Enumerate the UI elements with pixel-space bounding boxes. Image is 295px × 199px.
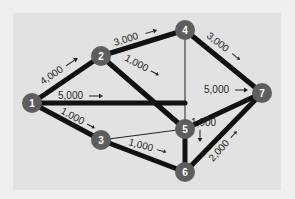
node-7: 7 xyxy=(252,83,272,103)
node-5: 5 xyxy=(175,119,195,139)
arrow-right-icon xyxy=(229,130,238,139)
arrow-right-icon xyxy=(231,52,241,61)
node-4: 4 xyxy=(175,20,195,40)
label-text: 5,000 xyxy=(204,84,229,95)
node-2: 2 xyxy=(91,46,111,66)
node-label: 4 xyxy=(182,25,188,36)
edge-3-5 xyxy=(101,129,185,140)
arrow-right-icon xyxy=(145,28,158,36)
node-6: 6 xyxy=(175,162,195,182)
node-1: 1 xyxy=(22,93,42,113)
arrow-right-icon xyxy=(65,56,79,68)
node-3: 3 xyxy=(91,130,111,150)
node-label: 3 xyxy=(98,135,104,146)
node-label: 6 xyxy=(182,167,188,178)
label-text: 5,000 xyxy=(58,90,83,101)
node-label: 5 xyxy=(182,124,188,135)
arrow-down-icon xyxy=(198,130,203,142)
edge-label-5-7: 5,000 xyxy=(204,84,248,95)
edge-label-4-7: 3,000 xyxy=(205,30,244,64)
arrow-right-icon xyxy=(86,122,96,130)
node-label: 7 xyxy=(259,88,265,99)
arrow-right-icon xyxy=(89,94,103,99)
network-diagram: 4,000 5,000 1,000 3,000 xyxy=(0,0,295,199)
edge-6-7 xyxy=(185,93,262,172)
edge-label-2-5: 1,000 xyxy=(123,52,162,80)
label-text: 2,000 xyxy=(206,137,231,163)
arrow-right-icon xyxy=(150,69,160,77)
label-text: 1,000 xyxy=(191,117,216,128)
node-label: 2 xyxy=(98,51,104,62)
diagram-canvas: 4,000 5,000 1,000 3,000 xyxy=(0,0,295,199)
arrow-right-icon xyxy=(156,148,167,154)
arrow-right-icon xyxy=(235,88,248,93)
node-label: 1 xyxy=(29,98,35,109)
label-text: 1,000 xyxy=(123,52,151,74)
edge-label-1-5: 5,000 xyxy=(58,90,103,101)
